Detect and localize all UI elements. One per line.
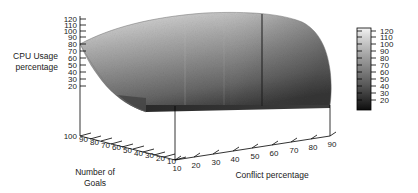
y-tick-label-30: 30 — [145, 151, 154, 160]
surface-plot-figure: 120 110 100 90 80 70 60 50 40 30 20 CPU … — [0, 0, 418, 193]
x-tick-label-10: 10 — [173, 164, 182, 173]
x-axis-title: Conflict percentage — [235, 170, 309, 180]
y-tick-label-70: 70 — [101, 141, 110, 150]
x-axis: 10 20 30 40 50 60 70 80 90 Conflict perc… — [173, 132, 337, 180]
z-tick-label-20: 20 — [68, 82, 77, 91]
y-tick-label-20: 20 — [156, 154, 165, 163]
x-tick-label-60: 60 — [270, 149, 279, 158]
surface-front-dark-band — [146, 105, 330, 112]
x-tick-label-20: 20 — [192, 161, 201, 170]
x-tick-label-80: 80 — [309, 143, 318, 152]
y-tick-label-60: 60 — [112, 143, 121, 152]
x-tick-label-30: 30 — [212, 158, 221, 167]
x-tick-label-90: 90 — [328, 140, 337, 149]
y-axis: 100 90 80 70 60 50 40 30 20 10 Number of… — [64, 132, 186, 188]
colorbar-tick-label-20: 20 — [380, 96, 389, 105]
x-tick-label-50: 50 — [251, 152, 260, 161]
x-tick-label-70: 70 — [290, 146, 299, 155]
z-axis-title-line1: CPU Usage — [13, 51, 58, 61]
z-axis-title-line2: percentage — [15, 62, 58, 72]
colorbar-gradient — [357, 28, 371, 110]
x-tick-label-40: 40 — [231, 155, 240, 164]
y-tick-label-100: 100 — [64, 132, 78, 141]
y-tick-label-90: 90 — [79, 135, 88, 144]
y-axis-title-line1: Number of — [75, 167, 115, 177]
plot-canvas: 120 110 100 90 80 70 60 50 40 30 20 CPU … — [0, 0, 418, 193]
surface-front-wedge — [117, 95, 146, 112]
colorbar: 120 110 100 90 80 70 60 50 40 30 20 — [357, 27, 394, 110]
z-axis: 120 110 100 90 80 70 60 50 40 30 20 CPU … — [13, 15, 86, 136]
y-axis-title-line2: Goals — [84, 178, 106, 188]
y-tick-label-80: 80 — [90, 138, 99, 147]
y-tick-label-40: 40 — [134, 149, 143, 158]
y-tick-label-50: 50 — [123, 146, 132, 155]
surface-mesh — [80, 12, 331, 112]
